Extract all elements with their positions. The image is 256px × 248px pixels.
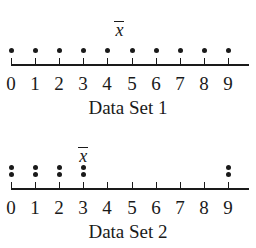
data-point [226, 172, 231, 177]
x-axis-tick [107, 182, 108, 189]
x-axis-tick [156, 182, 157, 189]
mean-x-bar-label: x [109, 20, 129, 40]
x-tick-label: 5 [122, 74, 142, 94]
x-tick-label: 9 [218, 74, 238, 94]
overline [78, 147, 88, 148]
x-tick-label: 0 [1, 74, 21, 94]
x-axis-tick [59, 58, 60, 65]
mean-symbol: x [79, 146, 87, 166]
data-point [33, 165, 38, 170]
mean-x-bar-label: x [73, 146, 93, 166]
data-point [33, 48, 38, 53]
x-axis-tick [228, 182, 229, 189]
data-point [57, 172, 62, 177]
data-point [130, 48, 135, 53]
x-axis-tick [228, 58, 229, 65]
x-tick-label: 6 [146, 74, 166, 94]
x-axis-tick [204, 182, 205, 189]
plot-title: Data Set 1 [0, 98, 256, 118]
x-axis-tick [11, 182, 12, 189]
data-point [81, 172, 86, 177]
x-tick-label: 3 [73, 198, 93, 218]
x-axis-tick [107, 58, 108, 65]
x-tick-label: 5 [122, 198, 142, 218]
data-point [9, 165, 14, 170]
x-tick-label: 9 [218, 198, 238, 218]
x-axis-tick [11, 58, 12, 65]
data-point [33, 172, 38, 177]
x-axis-tick [83, 58, 84, 65]
x-tick-label: 2 [49, 198, 69, 218]
x-tick-label: 1 [25, 198, 45, 218]
x-tick-label: 4 [97, 198, 117, 218]
x-axis-tick [204, 58, 205, 65]
data-point [57, 48, 62, 53]
x-axis-line [11, 188, 249, 190]
x-tick-label: 7 [170, 198, 190, 218]
x-axis-tick [156, 58, 157, 65]
data-point [57, 165, 62, 170]
x-tick-label: 2 [49, 74, 69, 94]
data-point [178, 48, 183, 53]
x-tick-label: 4 [97, 74, 117, 94]
x-tick-label: 3 [73, 74, 93, 94]
x-tick-label: 8 [194, 74, 214, 94]
x-axis-line [11, 64, 249, 66]
data-point [105, 48, 110, 53]
data-point [202, 48, 207, 53]
dot-plot-data-set-1: 0123456789xData Set 1 [0, 0, 256, 124]
x-axis-tick [35, 58, 36, 65]
overline [114, 21, 124, 22]
data-point [154, 48, 159, 53]
x-tick-label: 1 [25, 74, 45, 94]
x-axis-tick [180, 182, 181, 189]
plot-title: Data Set 2 [0, 222, 256, 242]
data-point [9, 172, 14, 177]
x-axis-tick [83, 182, 84, 189]
x-tick-label: 8 [194, 198, 214, 218]
data-point [226, 165, 231, 170]
x-axis-tick [180, 58, 181, 65]
data-point [226, 48, 231, 53]
data-point [9, 48, 14, 53]
x-tick-label: 0 [1, 198, 21, 218]
dot-plot-data-set-2: 0123456789xData Set 2 [0, 124, 256, 248]
x-tick-label: 6 [146, 198, 166, 218]
mean-symbol: x [115, 20, 123, 40]
x-tick-label: 7 [170, 74, 190, 94]
x-axis-tick [59, 182, 60, 189]
x-axis-tick [132, 182, 133, 189]
x-axis-tick [132, 58, 133, 65]
x-axis-tick [35, 182, 36, 189]
data-point [81, 48, 86, 53]
